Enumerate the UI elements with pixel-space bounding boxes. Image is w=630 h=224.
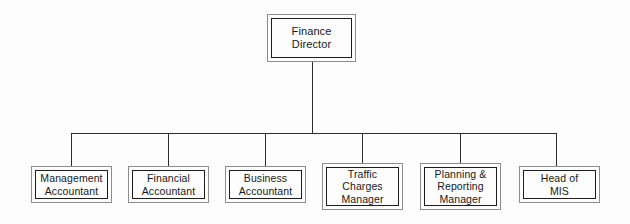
org-node-financial-accountant-label: Financial Accountant [142,172,196,197]
org-node-management-accountant[interactable]: Management Accountant [31,166,112,203]
org-node-management-accountant-frame: Management Accountant [35,170,108,199]
org-node-finance-director-label: Finance Director [292,25,332,52]
org-node-traffic-charges-manager-label: Traffic Charges Manager [341,168,383,206]
org-node-traffic-charges-manager-frame: Traffic Charges Manager [326,167,399,206]
connector-root-stem [312,62,313,133]
org-node-head-of-mis-label: Head of MIS [541,172,578,197]
org-node-finance-director-frame: Finance Director [271,18,352,58]
org-node-business-accountant-label: Business Accountant [239,172,293,197]
connector-drop-management-accountant [71,133,72,166]
org-node-finance-director[interactable]: Finance Director [267,14,356,62]
org-node-planning-reporting-manager-frame: Planning & Reporting Manager [424,167,497,206]
connector-drop-traffic-charges-manager [362,133,363,163]
org-node-business-accountant-frame: Business Accountant [229,170,302,199]
org-node-financial-accountant[interactable]: Financial Accountant [128,166,209,203]
connector-drop-head-of-mis [556,133,557,166]
org-node-head-of-mis-frame: Head of MIS [523,170,596,199]
connector-drop-financial-accountant [168,133,169,166]
org-node-planning-reporting-manager-label: Planning & Reporting Manager [435,168,487,206]
org-node-management-accountant-label: Management Accountant [40,172,102,197]
connector-horizontal-bus [71,133,557,134]
connector-drop-business-accountant [265,133,266,166]
org-node-head-of-mis[interactable]: Head of MIS [519,166,600,203]
org-node-planning-reporting-manager[interactable]: Planning & Reporting Manager [420,163,501,210]
org-node-financial-accountant-frame: Financial Accountant [132,170,205,199]
org-chart-canvas: Finance Director Management Accountant F… [0,0,630,224]
org-node-business-accountant[interactable]: Business Accountant [225,166,306,203]
org-node-traffic-charges-manager[interactable]: Traffic Charges Manager [322,163,403,210]
connector-drop-planning-reporting-manager [460,133,461,163]
